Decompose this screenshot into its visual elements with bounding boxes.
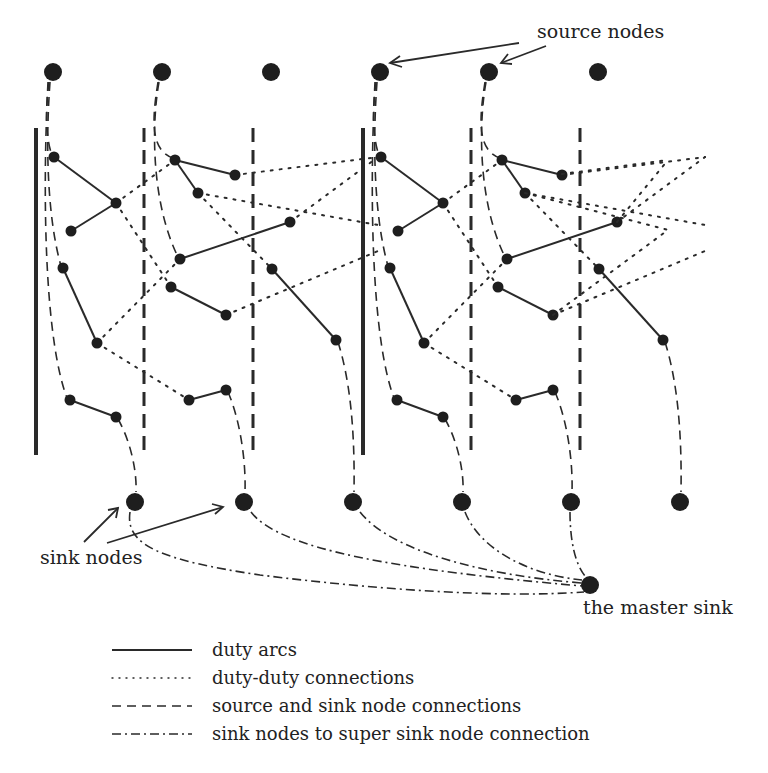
right-subnetwork	[363, 63, 705, 511]
legend-label-duty-duty: duty-duty connections	[212, 667, 414, 688]
master-sink-node	[581, 576, 599, 594]
legend-label-duty-arcs: duty arcs	[212, 639, 297, 660]
master-sink-label: the master sink	[583, 596, 733, 618]
sink-nodes-label: sink nodes	[40, 546, 142, 568]
sink-to-master-connections	[130, 512, 586, 594]
legend-label-super-sink: sink nodes to super sink node connection	[212, 723, 590, 744]
network-flow-diagram: source nodes sink nodes the master sink …	[0, 0, 768, 773]
right-edge-dotted-connections	[525, 160, 668, 315]
source-nodes-label: source nodes	[537, 20, 664, 42]
legend-label-source-sink: source and sink node connections	[212, 695, 521, 716]
left-subnetwork	[36, 63, 378, 511]
source-nodes-arrows	[390, 43, 546, 67]
sink-nodes-arrows	[84, 504, 223, 543]
legend: duty arcs duty-duty connections source a…	[112, 639, 590, 744]
